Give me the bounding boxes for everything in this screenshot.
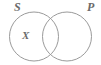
set-label-p: P (87, 1, 94, 13)
region-marker-x: X (22, 30, 29, 41)
set-circle-p (43, 12, 92, 61)
set-label-s: S (14, 1, 21, 13)
venn-diagram-figure: S P X (0, 0, 101, 65)
set-circle-s (10, 12, 59, 61)
